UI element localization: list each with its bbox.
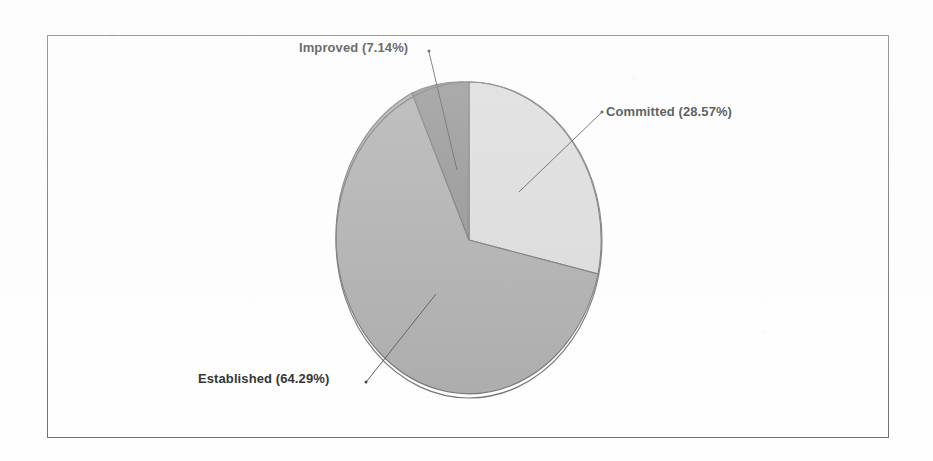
pie-slices-group <box>336 82 602 398</box>
pie-label-committed: Committed (28.57%) <box>606 104 732 119</box>
pie-label-established: Established (64.29%) <box>198 371 329 386</box>
pie-chart-figure: Improved (7.14%) Committed (28.57%) Esta… <box>0 0 933 461</box>
leader-dot-committed <box>601 111 604 114</box>
leader-dot-improved <box>428 50 431 53</box>
pie-label-improved: Improved (7.14%) <box>299 40 408 55</box>
pie-chart-canvas <box>0 0 933 461</box>
leader-dot-established <box>365 381 368 384</box>
